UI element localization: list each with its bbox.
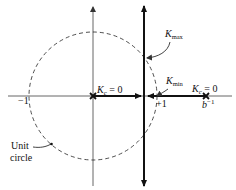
unit-circle-leader-line	[33, 144, 51, 147]
label-unit-circle-line2: circle	[10, 152, 33, 163]
unit-circle-leader-dot	[50, 143, 53, 146]
root-locus-diagram: −1 +1 Kc = 0 Kc = 0 b−1 Kmax Kmin Unit c…	[0, 0, 236, 190]
kmax-leader-line	[147, 42, 170, 58]
label-kmax: Kmax	[164, 28, 184, 40]
label-b-inverse: b−1	[202, 98, 215, 110]
label-plus-one: +1	[156, 98, 167, 109]
label-unit-circle-line1: Unit	[11, 140, 29, 151]
kmin-leader-line	[157, 89, 168, 96]
label-minus-one: −1	[18, 95, 29, 106]
label-kmin: Kmin	[165, 75, 184, 87]
